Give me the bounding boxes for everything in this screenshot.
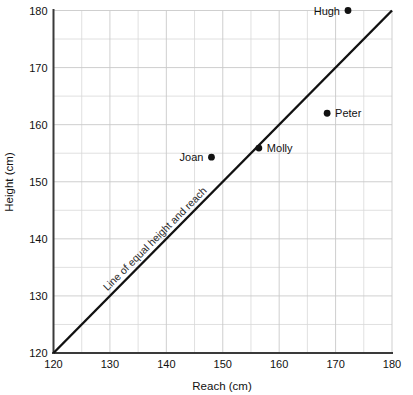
y-tick-label-180: 180	[29, 5, 47, 17]
x-tick-label-140: 140	[157, 358, 175, 370]
point-label-joan: Joan	[180, 151, 204, 163]
y-axis-title: Height (cm)	[3, 152, 15, 212]
point-marker-hugh	[345, 7, 352, 14]
point-label-peter: Peter	[335, 107, 362, 119]
plot-canvas: Line of equal height and reach 120130140…	[0, 0, 413, 395]
x-tick-label-160: 160	[270, 358, 288, 370]
point-marker-molly	[255, 145, 262, 152]
y-tick-label-140: 140	[29, 233, 47, 245]
point-marker-joan	[208, 154, 215, 161]
point-label-hugh: Hugh	[314, 5, 340, 17]
x-tick-label-120: 120	[44, 358, 62, 370]
y-tick-label-120: 120	[29, 347, 47, 359]
point-label-molly: Molly	[267, 142, 293, 154]
x-tick-label-130: 130	[101, 358, 119, 370]
scatter-chart: Line of equal height and reach 120130140…	[0, 0, 413, 395]
y-tick-label-130: 130	[29, 290, 47, 302]
x-tick-label-150: 150	[214, 358, 232, 370]
point-marker-peter	[324, 110, 331, 117]
x-tick-label-180: 180	[383, 358, 401, 370]
x-tick-label-170: 170	[326, 358, 344, 370]
x-axis-title: Reach (cm)	[192, 380, 252, 392]
y-tick-label-150: 150	[29, 176, 47, 188]
y-tick-label-170: 170	[29, 62, 47, 74]
y-tick-label-160: 160	[29, 119, 47, 131]
